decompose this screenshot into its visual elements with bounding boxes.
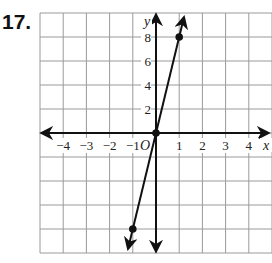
x-tick-label: 3 [222, 138, 229, 153]
y-tick-label: 4 [145, 78, 152, 93]
x-tick-label: 1 [176, 138, 183, 153]
coordinate-graph: −4−3−2−112342468Oxy [0, 0, 272, 263]
y-tick-label: 6 [145, 54, 152, 69]
x-tick-label: −3 [79, 138, 93, 153]
data-point [129, 225, 137, 233]
x-tick-label: 2 [199, 138, 206, 153]
data-point [175, 33, 183, 41]
x-tick-label: 4 [246, 138, 253, 153]
y-axis-label: y [142, 14, 151, 29]
x-tick-label: −1 [126, 138, 140, 153]
origin-label: O [140, 138, 150, 153]
x-axis-label: x [262, 138, 270, 153]
x-tick-label: −2 [103, 138, 117, 153]
y-tick-label: 2 [145, 102, 152, 117]
y-tick-label: 8 [145, 30, 152, 45]
x-tick-label: −4 [56, 138, 70, 153]
data-point [152, 129, 160, 137]
